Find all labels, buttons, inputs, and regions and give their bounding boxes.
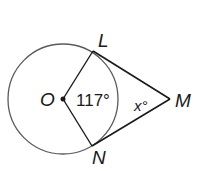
center-point-icon (61, 97, 66, 102)
external-angle-value: x° (133, 97, 148, 114)
geometry-diagram: O L M N 117° x° (0, 0, 203, 171)
label-l: L (98, 30, 109, 51)
label-m: M (175, 90, 191, 111)
central-angle-value: 117° (76, 91, 110, 110)
label-o: O (40, 89, 55, 110)
label-n: N (92, 147, 106, 168)
